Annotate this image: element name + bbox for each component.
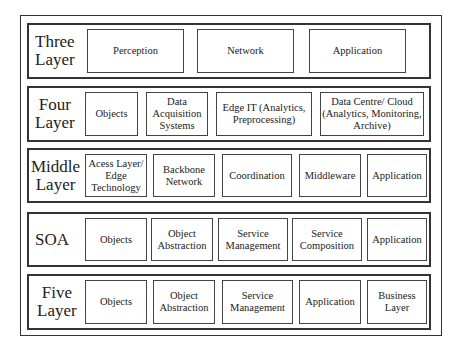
cell-application: Application	[367, 154, 427, 197]
cell-objects: Objects	[85, 218, 147, 261]
row-label-line2: Layer	[35, 51, 75, 69]
row-soa: SOA Objects Object Abstraction Service M…	[27, 212, 431, 267]
cell-application: Application	[299, 280, 361, 324]
row-label-line1: SOA	[35, 231, 69, 249]
row-label-line2: Layer	[35, 114, 75, 132]
cell-perception: Perception	[87, 29, 184, 73]
cell-middleware: Middleware	[299, 154, 361, 197]
row-label-line1: Four	[39, 96, 71, 114]
row-three-layer: Three Layer Perception Network Applicati…	[27, 23, 431, 79]
cell-access-layer-edge: Acess Layer/ Edge Technology	[85, 154, 147, 197]
cell-data-centre-cloud: Data Centre/ Cloud (Analytics, Monitorin…	[320, 92, 424, 136]
row-four-layer: Four Layer Objects Data Acquisition Syst…	[27, 86, 431, 142]
row-label-line2: Layer	[36, 176, 76, 194]
cell-application: Application	[309, 29, 406, 73]
cell-service-management: Service Management	[218, 218, 288, 261]
row-label: Five Layer	[37, 276, 77, 328]
row-label: SOA	[35, 214, 69, 265]
cell-backbone-network: Backbone Network	[153, 154, 215, 197]
cell-network: Network	[197, 29, 294, 73]
cell-business-layer: Business Layer	[367, 280, 427, 324]
cell-edge-it: Edge IT (Analytics, Preprocessing)	[216, 92, 312, 136]
row-label: Three Layer	[35, 25, 75, 77]
row-middle-layer: Middle Layer Acess Layer/ Edge Technolog…	[27, 148, 431, 203]
cell-object-abstraction: Object Abstraction	[153, 280, 215, 324]
row-five-layer: Five Layer Objects Object Abstraction Se…	[27, 274, 431, 330]
cell-objects: Objects	[85, 280, 147, 324]
cell-objects: Objects	[85, 92, 138, 136]
row-label-line1: Middle	[31, 158, 80, 176]
row-label-line1: Three	[35, 33, 75, 51]
cell-application: Application	[367, 218, 427, 261]
cell-object-abstraction: Object Abstraction	[151, 218, 213, 261]
cell-service-composition: Service Composition	[292, 218, 362, 261]
cell-service-management: Service Management	[222, 280, 293, 324]
row-label-line1: Five	[42, 284, 72, 302]
row-label: Four Layer	[35, 88, 75, 140]
row-label-line2: Layer	[37, 302, 77, 320]
cell-data-acquisition-systems: Data Acquisition Systems	[146, 92, 208, 136]
row-label: Middle Layer	[31, 150, 80, 201]
cell-coordination: Coordination	[222, 154, 292, 197]
